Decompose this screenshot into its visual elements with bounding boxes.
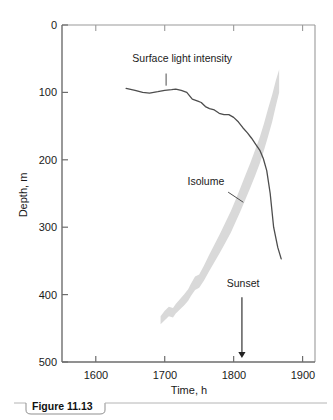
y-tick-label-500: 500 [39,356,57,368]
x-tick-label-1900: 1900 [291,369,315,381]
x-axis-title: Time, h [171,384,207,396]
surface-light-curve [126,88,281,259]
figure-caption: Figure 11.13 [14,400,327,414]
figure-container: Surface light intensityIsolumeSunset 0 1… [0,0,333,420]
plot-frame [62,25,315,362]
annotation-label-isolume: Isolume [187,175,224,187]
axis-ticks [62,25,303,362]
annotation-label-sunset: Sunset [227,277,260,289]
y-tick-label-300: 300 [39,221,57,233]
y-tick-labels: 0 100 200 300 400 500 [39,19,57,368]
y-tick-label-0: 0 [51,19,57,31]
isolume-band [161,69,280,324]
isolume-band-shape [161,69,280,324]
x-tick-label-1800: 1800 [222,369,246,381]
x-tick-label-1600: 1600 [84,369,108,381]
x-tick-label-1700: 1700 [153,369,177,381]
y-tick-label-400: 400 [39,289,57,301]
annotation-arrow-head-sunset [238,352,245,358]
annotation-label-surface-light-intensity: Surface light intensity [132,52,233,64]
depth-time-chart: Surface light intensityIsolumeSunset 0 1… [0,0,333,420]
caption-label: Figure 11.13 [32,400,93,412]
y-tick-label-100: 100 [39,86,57,98]
x-tick-labels: 1600 1700 1800 1900 [84,369,315,381]
y-axis-title: Depth, m [17,173,29,218]
curve-surface-light-intensity [126,88,281,259]
y-tick-label-200: 200 [39,154,57,166]
